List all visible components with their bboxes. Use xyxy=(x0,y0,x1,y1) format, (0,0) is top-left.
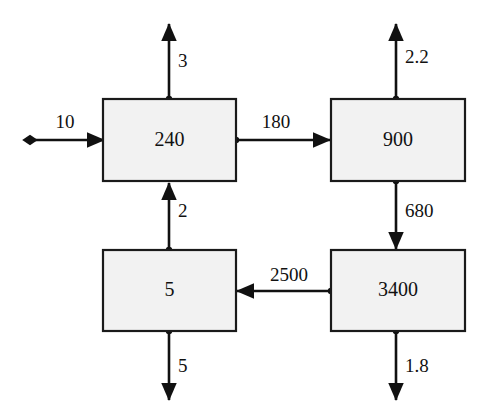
box-top-left-label: 240 xyxy=(155,128,185,150)
arrow-label-outflow-2-2: 2.2 xyxy=(405,46,429,67)
arrow-label-2: 2 xyxy=(178,200,188,221)
arrow-label-outflow-5: 5 xyxy=(178,355,188,376)
arrow-label-2500: 2500 xyxy=(270,264,308,285)
box-bottom-left[interactable]: 5 xyxy=(103,250,236,331)
arrow-label-180: 180 xyxy=(262,111,291,132)
box-top-right[interactable]: 900 xyxy=(331,99,465,181)
box-bottom-right[interactable]: 3400 xyxy=(331,250,465,331)
arrow-label-680: 680 xyxy=(405,200,434,221)
box-top-right-label: 900 xyxy=(383,128,413,150)
arrow-label-outflow-3: 3 xyxy=(178,50,188,71)
box-bottom-right-label: 3400 xyxy=(378,278,418,300)
diagram-canvas: 240 900 5 3400 10 3 180 2.2 680 2500 2 5… xyxy=(0,0,492,419)
box-top-left[interactable]: 240 xyxy=(103,99,236,181)
arrow-label-inflow-10: 10 xyxy=(56,111,75,132)
box-bottom-left-label: 5 xyxy=(165,278,175,300)
arrow-label-outflow-1-8: 1.8 xyxy=(405,355,429,376)
block-flow-diagram: 240 900 5 3400 10 3 180 2.2 680 2500 2 5… xyxy=(0,0,492,419)
